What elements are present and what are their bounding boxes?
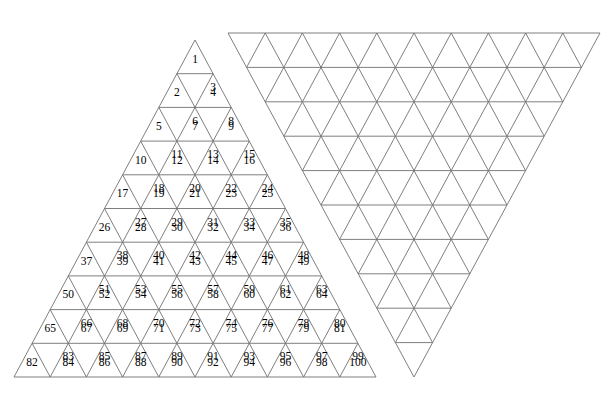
right-triangle-left-edge xyxy=(302,67,321,101)
right-triangle-right-edge xyxy=(228,33,247,67)
right-triangle-left-edge xyxy=(526,67,545,101)
triangle-cell-number: 16 xyxy=(244,155,256,167)
right-triangle-left-edge xyxy=(284,102,303,136)
right-triangle-left-edge xyxy=(358,171,377,205)
right-triangle-left-edge xyxy=(488,67,507,101)
right-triangle-left-edge xyxy=(321,102,340,136)
right-triangle-left-edge xyxy=(544,33,563,67)
right-triangle-left-edge xyxy=(414,205,433,239)
triangle-cell-number: 69 xyxy=(117,323,129,335)
triangle-cell-number: 88 xyxy=(135,357,147,369)
right-triangle-right-edge xyxy=(526,102,545,136)
right-triangle-right-edge xyxy=(470,205,489,239)
right-triangle-right-edge xyxy=(377,239,396,273)
triangle-cell-number: 52 xyxy=(99,290,111,302)
right-triangle-right-edge xyxy=(284,67,303,101)
triangle-cell-number: 86 xyxy=(99,357,111,369)
triangle-cell-number: 17 xyxy=(117,189,129,201)
right-triangle-left-edge xyxy=(395,33,414,67)
triangle-cell-number: 10 xyxy=(135,155,147,167)
triangle-cell-number: 94 xyxy=(244,357,256,369)
triangle-cell-number: 26 xyxy=(99,222,111,234)
triangle-cell-number: 84 xyxy=(63,357,75,369)
right-triangle-right-edge xyxy=(488,33,507,67)
right-triangle-right-edge xyxy=(284,136,303,170)
right-triangle-left-edge xyxy=(451,67,470,101)
right-triangle-right-edge xyxy=(433,274,452,308)
triangular-grid-figure: 1234567891011121314151617181920212223242… xyxy=(0,0,614,409)
triangle-cell-number: 1 xyxy=(192,54,198,66)
right-triangle-left-edge xyxy=(488,205,507,239)
right-triangle-left-edge xyxy=(507,33,526,67)
triangle-cell-number: 23 xyxy=(225,189,237,201)
triangle-cell-number: 60 xyxy=(244,290,256,302)
right-triangle-right-edge xyxy=(377,33,396,67)
right-triangle-left-edge xyxy=(433,171,452,205)
right-triangle-right-edge xyxy=(377,171,396,205)
triangle-cell-number: 43 xyxy=(189,256,201,268)
triangle-cell-number: 32 xyxy=(207,222,219,234)
right-triangle-right-edge xyxy=(340,102,359,136)
right-triangle-right-edge xyxy=(488,171,507,205)
right-triangle-left-edge xyxy=(377,67,396,101)
right-triangle-right-edge xyxy=(507,136,526,170)
right-triangle-right-edge xyxy=(358,274,377,308)
right-triangle-right-edge xyxy=(395,343,414,377)
right-triangle-left-edge xyxy=(321,171,340,205)
triangle-cell-number: 75 xyxy=(225,323,237,335)
triangle-cell-number: 56 xyxy=(171,290,183,302)
right-triangle-right-edge xyxy=(265,33,284,67)
right-triangle-right-edge xyxy=(358,67,377,101)
right-triangle-left-edge xyxy=(340,136,359,170)
triangle-cell-number: 73 xyxy=(189,323,201,335)
right-triangle-left-edge xyxy=(433,33,452,67)
right-triangle-left-edge xyxy=(526,136,545,170)
right-triangle-left-edge xyxy=(451,136,470,170)
triangle-cell-number: 34 xyxy=(244,222,256,234)
right-triangle-right-edge xyxy=(451,33,470,67)
triangle-cell-number: 96 xyxy=(280,357,292,369)
triangle-cell-number: 21 xyxy=(189,189,201,201)
right-triangle-right-edge xyxy=(377,308,396,342)
triangle-cell-number: 19 xyxy=(153,189,165,201)
right-triangle-right-edge xyxy=(395,205,414,239)
right-triangle-left-edge xyxy=(358,33,377,67)
right-triangle-left-edge xyxy=(395,102,414,136)
triangle-cell-number: 14 xyxy=(207,155,219,167)
right-triangle-left-edge xyxy=(581,33,600,67)
right-triangle-right-edge xyxy=(395,136,414,170)
right-triangle-right-edge xyxy=(470,67,489,101)
triangle-cell-number: 77 xyxy=(262,323,274,335)
right-triangle-left-edge xyxy=(395,308,414,342)
triangle-cell-number: 62 xyxy=(280,290,292,302)
right-triangle-right-edge xyxy=(451,102,470,136)
right-triangle-right-edge xyxy=(451,171,470,205)
right-triangle-left-edge xyxy=(321,33,340,67)
right-triangle-left-edge xyxy=(433,102,452,136)
right-triangle-right-edge xyxy=(563,33,582,67)
right-triangle-left-edge xyxy=(544,102,563,136)
triangle-cell-number: 71 xyxy=(153,323,165,335)
right-triangle-right-edge xyxy=(321,67,340,101)
right-triangle-left-edge xyxy=(302,136,321,170)
right-triangle-left-edge xyxy=(470,33,489,67)
triangle-cell-number: 4 xyxy=(210,87,216,99)
right-triangle-left-edge xyxy=(488,136,507,170)
triangle-cell-number: 79 xyxy=(298,323,310,335)
right-triangle-right-edge xyxy=(451,239,470,273)
right-triangle-left-edge xyxy=(470,171,489,205)
right-triangle-left-edge xyxy=(395,171,414,205)
triangle-cell-number: 7 xyxy=(192,121,198,133)
right-triangle-left-edge xyxy=(470,102,489,136)
right-triangle-left-edge xyxy=(451,274,470,308)
right-triangle-left-edge xyxy=(451,205,470,239)
right-triangle-right-edge xyxy=(340,33,359,67)
right-triangle-right-edge xyxy=(302,102,321,136)
triangle-cell-number: 54 xyxy=(135,290,147,302)
right-triangle-left-edge xyxy=(414,274,433,308)
triangle-cell-number: 36 xyxy=(280,222,292,234)
triangle-cell-number: 64 xyxy=(316,290,328,302)
right-triangle-right-edge xyxy=(433,136,452,170)
right-triangle-right-edge xyxy=(340,171,359,205)
triangle-cell-number: 49 xyxy=(298,256,310,268)
